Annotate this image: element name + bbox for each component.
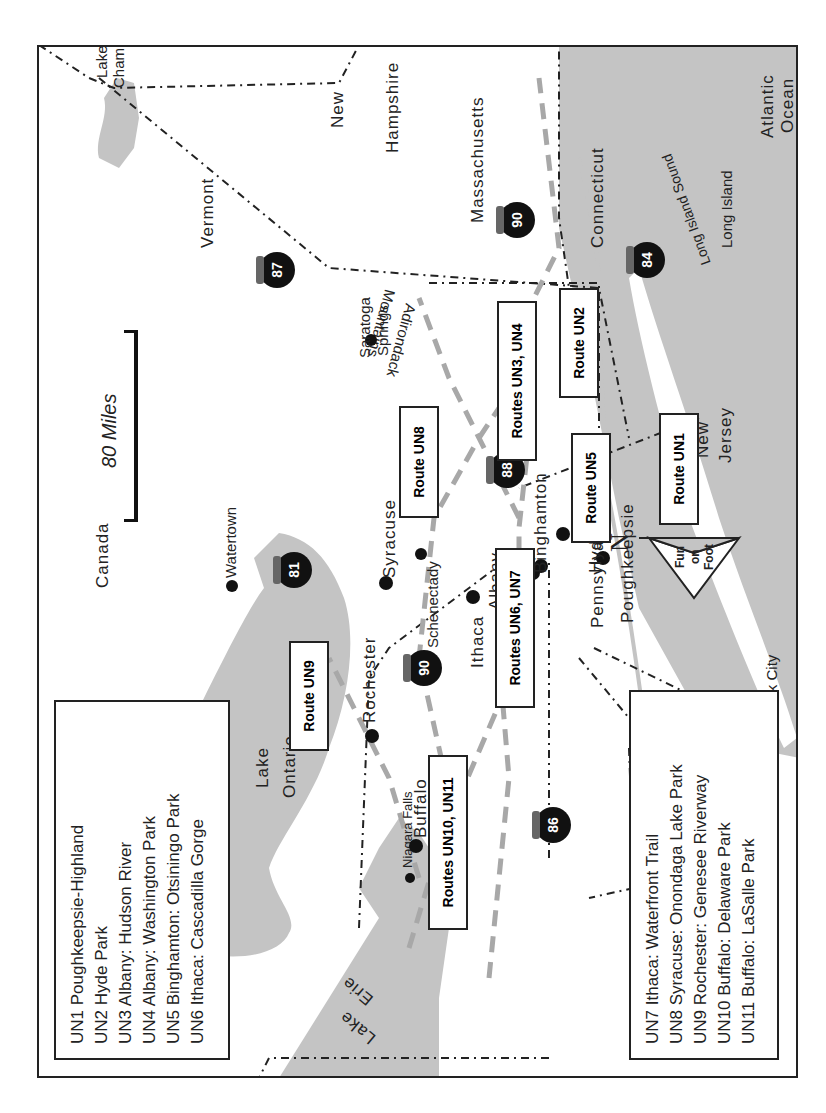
city-label: Rochester	[361, 637, 378, 723]
city-label: Watertown	[223, 507, 238, 578]
label-new-jersey-2: Jersey	[717, 407, 734, 463]
label-vermont: Vermont	[199, 178, 216, 248]
legend-item: UN8 Syracuse: Onondaga Lake Park	[665, 706, 689, 1044]
city-label: Schenectady	[425, 561, 440, 648]
scale-label: 80 Miles	[99, 394, 119, 468]
label-lake-ontario-1: Lake	[254, 747, 271, 788]
route-box-un6-un7: Routes UN6, UN7	[495, 548, 535, 708]
highway-shield-84: 84	[629, 242, 665, 278]
city-label: Springs	[375, 305, 390, 356]
legend-item: UN10 Buffalo: Delaware Park	[713, 706, 737, 1044]
route-box-un8: Route UN8	[399, 406, 439, 518]
city-dot	[365, 729, 379, 743]
legend-item: UN11 Buffalo: LaSalle Park	[737, 706, 761, 1044]
label-connecticut: Connecticut	[589, 147, 606, 248]
highway-shield-90-east: 90	[499, 202, 535, 238]
legend-item: UN3 Albany: Hudson River	[114, 716, 138, 1044]
highway-shield-86: 86	[535, 807, 571, 843]
legend-item: UN6 Ithaca: Cascadilla Gorge	[186, 716, 210, 1044]
map-canvas: Canada Vermont New Hampshire Massachuset…	[39, 45, 798, 1078]
city-dot	[226, 580, 238, 592]
city-label: Saratoga	[357, 297, 372, 358]
legend-item: UN1 Poughkeepsie-Highland	[66, 716, 90, 1044]
label-long-island: Long Island	[719, 170, 734, 248]
label-atlantic-1: Atlantic	[759, 74, 776, 138]
route-box-un3-un4: Routes UN3, UN4	[497, 301, 537, 461]
label-massachusetts: Massachusetts	[469, 97, 486, 223]
north-label: N	[607, 533, 633, 552]
city-label: Poughkeepsie	[619, 503, 636, 623]
label-new-hampshire-2: Hampshire	[384, 62, 401, 153]
legend-item: UN9 Rochester: Genesee Riverway	[689, 706, 713, 1044]
legend-item: UN2 Hyde Park	[90, 716, 114, 1044]
compass-brand-2: on	[689, 549, 701, 564]
highway-shield-87: 87	[259, 252, 295, 288]
route-box-un10-un11: Routes UN10, UN11	[428, 755, 468, 930]
city-label: Syracuse	[381, 499, 398, 578]
city-dot	[415, 548, 427, 560]
route-box-un9: Route UN9	[289, 641, 329, 751]
route-box-un2: Route UN2	[559, 288, 599, 398]
city-dot	[466, 590, 480, 604]
legend-right: UN7 Ithaca: Waterfront Trail UN8 Syracus…	[629, 690, 779, 1060]
city-dot	[556, 527, 570, 541]
label-new-hampshire-1: New	[329, 91, 346, 128]
label-atlantic-2: Ocean	[779, 78, 796, 133]
legend-item: UN5 Binghamton: Otsiningo Park	[162, 716, 186, 1044]
city-dot	[379, 576, 393, 590]
label-lake-champlain-2: Champlain	[111, 45, 126, 88]
map-frame: Canada Vermont New Hampshire Massachuset…	[37, 45, 798, 1078]
north-arrow: N Fun on Foot	[639, 488, 759, 608]
label-lake-champlain-1: Lake	[94, 45, 109, 78]
compass-brand-1: Fun	[674, 546, 686, 568]
route-box-un5: Route UN5	[571, 433, 611, 543]
label-canada: Canada	[94, 522, 111, 588]
legend-left: UN1 Poughkeepsie-Highland UN2 Hyde Park …	[54, 700, 230, 1060]
city-dot	[405, 873, 415, 883]
legend-item: UN4 Albany: Washington Park	[138, 716, 162, 1044]
highway-shield-90-west: 90	[406, 650, 442, 686]
city-label: Ithaca	[469, 616, 486, 668]
lake-champlain-water	[98, 78, 139, 168]
scale-bar	[124, 330, 138, 522]
north-arrow-icon	[639, 488, 759, 608]
city-label: Buffalo	[412, 778, 429, 838]
highway-shield-81: 81	[276, 552, 312, 588]
city-dot	[409, 839, 423, 853]
legend-item: UN7 Ithaca: Waterfront Trail	[641, 706, 665, 1044]
lake-champlain	[39, 45, 114, 318]
compass-brand-3: Foot	[703, 544, 715, 570]
